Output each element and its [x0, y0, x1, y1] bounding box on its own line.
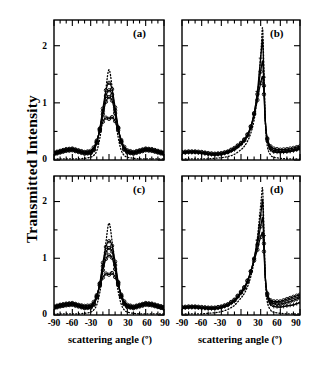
- series-solid-2: [182, 61, 300, 154]
- series-solid-3: [182, 232, 300, 308]
- series-dotted-theory: [54, 223, 164, 314]
- series-solid-2: [54, 90, 164, 153]
- series-solid-3: [54, 97, 164, 153]
- plot-canvas: [0, 0, 322, 368]
- series-solid-3: [182, 76, 300, 153]
- figure-container: Transmitted Intensity 0 1 2 0 1 2 (a) (b…: [0, 0, 322, 368]
- series-dotted-theory: [182, 28, 300, 159]
- panel-c: [52, 176, 165, 315]
- panel-a: [52, 20, 165, 160]
- panel-d: [180, 176, 302, 315]
- series-solid-1: [182, 39, 300, 155]
- series-solid-3: [54, 255, 164, 307]
- panel-b: [180, 20, 302, 160]
